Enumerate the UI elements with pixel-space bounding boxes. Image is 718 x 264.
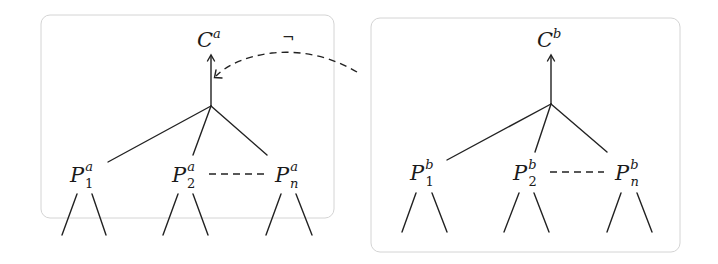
panel-a: Ca Pa1 Pa2 Pan <box>41 15 334 235</box>
subtree-legs-a <box>62 194 312 235</box>
dashed-curve <box>216 52 357 76</box>
leg <box>163 194 178 235</box>
leg <box>402 193 416 232</box>
child-label-b-2: Pb2 <box>512 157 537 189</box>
panel-b: Cb Pb1 Pb2 Pbn <box>371 18 680 252</box>
leg <box>266 194 281 235</box>
child-label-b-n: Pbn <box>614 157 639 189</box>
root-label-a: Ca <box>197 26 221 52</box>
branch-a-n <box>211 106 267 155</box>
root-label-b: Cb <box>537 26 561 52</box>
cross-edge: ¬ <box>215 29 358 78</box>
leg <box>62 194 77 235</box>
leg <box>296 194 312 235</box>
panel-b-frame <box>371 18 680 252</box>
leg <box>637 193 652 232</box>
leg <box>607 193 621 232</box>
branch-a-2 <box>193 106 211 155</box>
branch-a-1 <box>108 106 211 162</box>
diagram-canvas: Ca Pa1 Pa2 Pan ¬ Cb <box>0 0 718 264</box>
leg <box>504 193 519 232</box>
leg <box>92 194 106 235</box>
leg <box>432 193 447 232</box>
branch-b-n <box>551 104 607 152</box>
negation-label: ¬ <box>282 29 295 47</box>
child-label-a-1: Pa1 <box>69 159 93 191</box>
subtree-legs-b <box>402 193 652 232</box>
child-label-a-2: Pa2 <box>171 159 195 191</box>
leg <box>534 193 549 232</box>
child-label-b-1: Pb1 <box>409 157 434 189</box>
leg <box>193 194 208 235</box>
child-label-a-n: Pan <box>274 159 298 191</box>
